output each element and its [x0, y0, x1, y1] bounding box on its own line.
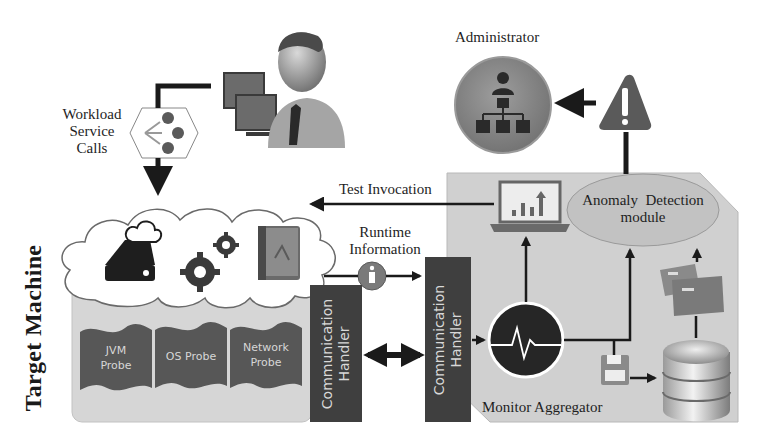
probe-jvm: JVM Probe: [80, 343, 152, 373]
user-at-workstation-icon: [224, 32, 345, 148]
communication-handler-target: Communication Handler: [310, 285, 362, 422]
heartbeat-monitor-icon: [489, 303, 563, 377]
runtime-information-label: Runtime Information: [343, 224, 427, 258]
probe-network-line1: Network: [230, 340, 302, 355]
anomaly-label-line2: module: [572, 209, 714, 226]
database-icon: [663, 340, 730, 421]
probe-os: OS Probe: [155, 349, 227, 364]
target-machine-label: Target Machine: [20, 244, 47, 411]
floppy-disk-icon: [601, 355, 629, 385]
anomaly-label-line1: Anomaly Detection: [572, 192, 714, 209]
handler-aggregator-line1: Communication: [431, 284, 448, 394]
laptop-chart-icon: [490, 182, 570, 232]
info-icon: [358, 262, 386, 290]
probe-jvm-line1: JVM: [80, 343, 152, 358]
workload-label-line2: Service: [54, 123, 130, 140]
runtime-label-line2: Information: [343, 241, 427, 258]
probe-network-line2: Probe: [230, 355, 302, 370]
workload-service-calls-label: Workload Service Calls: [54, 106, 130, 157]
monitor-aggregator-label: Monitor Aggregator: [482, 399, 602, 416]
org-chart-admin-icon: [455, 57, 551, 153]
probe-jvm-line2: Probe: [80, 358, 152, 373]
application-book-icon: [258, 226, 300, 280]
warning-triangle-icon: [599, 75, 651, 130]
anomaly-detection-label: Anomaly Detection module: [572, 192, 714, 226]
communication-handler-aggregator: Communication Handler: [425, 257, 471, 422]
workload-label-line1: Workload: [54, 106, 130, 123]
probe-os-line1: OS Probe: [155, 349, 227, 364]
communication-handler-aggregator-label: Communication Handler: [431, 284, 465, 394]
handler-aggregator-line2: Handler: [448, 284, 465, 394]
runtime-label-line1: Runtime: [343, 224, 427, 241]
communication-handler-target-label: Communication Handler: [319, 298, 353, 408]
handler-target-line1: Communication: [319, 298, 336, 408]
service-calls-hexagon-icon: [130, 108, 198, 158]
workload-label-line3: Calls: [54, 140, 130, 157]
administrator-label: Administrator: [455, 29, 539, 46]
test-invocation-label: Test Invocation: [339, 181, 432, 198]
probe-network: Network Probe: [230, 340, 302, 370]
handler-target-line2: Handler: [336, 298, 353, 408]
target-machine-title: Target Machine: [8, 220, 58, 435]
